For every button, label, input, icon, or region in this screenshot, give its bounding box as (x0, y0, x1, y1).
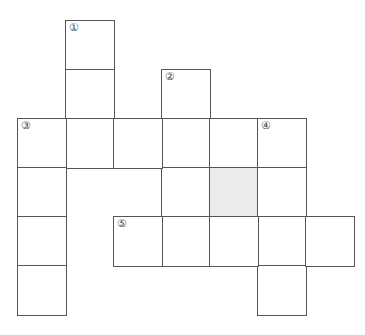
clue-number: ③ (21, 120, 31, 132)
crossword-cell[interactable] (257, 216, 307, 267)
crossword-cell[interactable] (209, 118, 259, 169)
crossword-cell[interactable] (161, 118, 211, 169)
crossword-cell[interactable]: ④ (257, 118, 307, 169)
crossword-cell[interactable] (17, 265, 67, 316)
crossword-cell[interactable] (65, 118, 115, 169)
crossword-cell[interactable]: ② (161, 69, 211, 120)
crossword-cell[interactable] (257, 265, 307, 316)
clue-number: ④ (261, 120, 271, 132)
crossword-cell[interactable] (65, 69, 115, 120)
crossword-cell[interactable] (17, 167, 67, 218)
crossword-cell[interactable]: ① (65, 20, 115, 71)
crossword-cell[interactable] (209, 216, 259, 267)
shaded-cell (209, 167, 259, 218)
crossword-cell[interactable]: ⑤ (113, 216, 163, 267)
crossword-grid: ①②③④⑤ (0, 0, 365, 335)
clue-number: ① (69, 22, 79, 34)
crossword-cell[interactable] (305, 216, 355, 267)
clue-number: ⑤ (117, 218, 127, 230)
crossword-cell[interactable] (113, 118, 163, 169)
clue-number: ② (165, 71, 175, 83)
crossword-cell[interactable]: ③ (17, 118, 67, 169)
crossword-cell[interactable] (17, 216, 67, 267)
crossword-cell[interactable] (257, 167, 307, 218)
crossword-cell[interactable] (161, 167, 211, 218)
crossword-cell[interactable] (161, 216, 211, 267)
